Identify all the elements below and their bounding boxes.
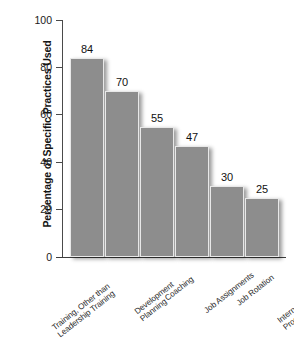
bar-value-5: 25 — [240, 184, 284, 195]
bar-value-2: 55 — [135, 113, 179, 124]
bar-value-3: 47 — [170, 132, 214, 143]
bar-5 — [245, 198, 279, 257]
bar-chart-figure: Percentage of Specific Practices Used 10… — [0, 0, 294, 348]
y-tick-label-0: 0 — [12, 252, 52, 263]
y-tick-label-40: 40 — [12, 157, 52, 168]
bar-1 — [105, 91, 139, 257]
bar-4 — [210, 186, 244, 257]
y-tick-label-20: 20 — [12, 204, 52, 215]
bar-3 — [175, 146, 209, 257]
y-tick-label-100: 100 — [12, 15, 52, 26]
bar-value-4: 30 — [205, 172, 249, 183]
bar-0 — [70, 58, 104, 257]
plot-area: 84 70 55 47 30 25 — [62, 20, 286, 257]
bar-2 — [140, 127, 174, 257]
y-tick-label-60: 60 — [12, 109, 52, 120]
y-axis-title: Percentage of Specific Practices Used — [41, 9, 53, 259]
y-tick-label-80: 80 — [12, 62, 52, 73]
x-axis-label-0: Training, Other than Leadership Training — [50, 266, 137, 340]
bar-value-1: 70 — [100, 77, 144, 88]
x-axis-line — [56, 257, 286, 258]
bar-value-0: 84 — [65, 44, 109, 55]
